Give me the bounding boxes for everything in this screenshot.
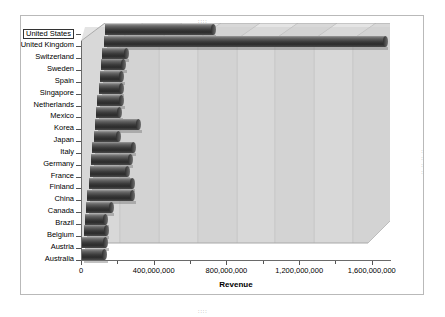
x-axis-tick-major	[81, 261, 82, 265]
resize-handle-bottom[interactable]: ::::	[198, 299, 208, 317]
x-axis-tick-major	[154, 261, 155, 265]
x-axis-title-text: Revenue	[219, 280, 252, 289]
x-axis-title: Revenue	[81, 280, 391, 289]
x-axis-tick-minor	[117, 261, 118, 264]
x-axis-labels: 0400,000,000800,000,0001,200,000,0001,60…	[21, 16, 425, 296]
x-axis-tick-label: 1,600,000,000	[332, 266, 412, 275]
x-axis-tick-label: 1,200,000,000	[259, 266, 339, 275]
x-axis-tick-label: 800,000,000	[186, 266, 266, 275]
chart-frame[interactable]: United StatesUnited KingdomSwitzerlandSw…	[20, 15, 424, 295]
handle-dots-bottom: ::::	[198, 308, 208, 314]
chart-screenshot: United StatesUnited KingdomSwitzerlandSw…	[0, 0, 445, 317]
handle-dots-top: ::::	[198, 18, 208, 24]
handle-dots-right: ::::	[419, 148, 424, 176]
x-axis-tick-minor	[263, 261, 264, 264]
x-axis-tick-major	[299, 261, 300, 265]
resize-handle-top[interactable]: ::::	[198, 9, 208, 27]
x-axis-tick-minor	[190, 261, 191, 264]
x-axis-tick-minor	[335, 261, 336, 264]
x-axis-tick-label: 400,000,000	[114, 266, 194, 275]
resize-handle-right[interactable]: ::::	[419, 148, 424, 180]
x-axis-tick-major	[226, 261, 227, 265]
x-axis-tick-major	[372, 261, 373, 265]
x-axis-tick-label: 0	[41, 266, 121, 275]
